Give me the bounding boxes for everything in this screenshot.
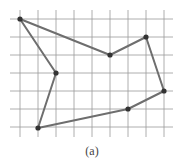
polygon-grid-figure <box>0 0 184 164</box>
vertex-point <box>161 88 166 93</box>
grid-lines <box>10 10 173 137</box>
vertex-point <box>107 52 112 57</box>
vertex-point <box>125 106 130 111</box>
vertex-point <box>143 34 148 39</box>
vertex-point <box>35 125 40 130</box>
vertex-point <box>53 70 58 75</box>
figure-caption: (a) <box>0 144 184 159</box>
vertex-point <box>17 16 22 21</box>
